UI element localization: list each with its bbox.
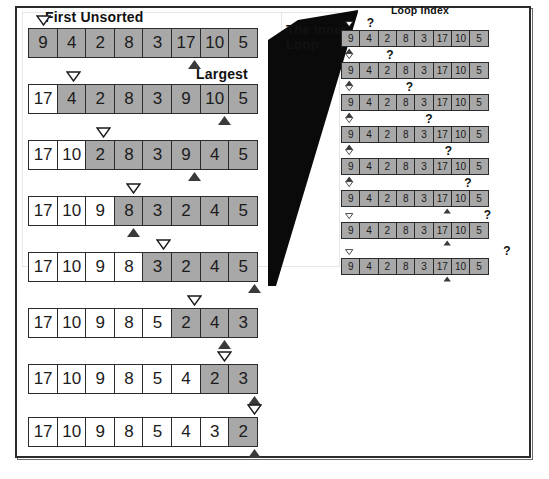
array-cell: 5 [142,417,172,447]
inner-loop-array-row: 9428317105 [341,62,489,79]
array-cell: 3 [414,258,434,275]
array-cell: 2 [85,140,115,170]
loop-index-question-mark: ? [367,16,374,30]
array-cell: 17 [28,252,58,282]
array-cell: 10 [451,126,471,143]
array-cell: 4 [171,417,201,447]
array-cell: 9 [85,308,115,338]
array-cell: 5 [469,190,489,207]
array-cell: 5 [228,28,258,58]
inner-loop-start-pointer-icon [345,53,361,65]
array-cell: 4 [171,364,201,394]
array-cell: 2 [378,158,398,175]
array-cell: 10 [200,84,230,114]
array-cell: 4 [359,30,379,47]
array-cell: 9 [171,140,201,170]
array-cell: 3 [414,222,434,239]
array-cell: 10 [451,62,471,79]
array-cell: 8 [396,158,416,175]
array-cell: 4 [359,258,379,275]
array-cell: 10 [451,258,471,275]
outer-pass-array-row: 1710985243 [28,308,258,338]
outer-pass-array-row: 9428317105 [28,28,258,58]
array-cell: 10 [451,222,471,239]
array-cell: 17 [28,84,58,114]
array-cell: 2 [378,258,398,275]
array-cell: 8 [114,140,144,170]
array-cell: 2 [171,308,201,338]
outer-pass-array-row: 1742839105 [28,84,258,114]
array-cell: 17 [433,222,453,239]
label-loop-index: Loop Index [391,4,449,16]
array-cell: 5 [228,196,258,226]
label-largest: Largest [196,66,248,82]
largest-pointer-icon [247,448,263,460]
array-cell: 3 [414,62,434,79]
array-cell: 4 [359,126,379,143]
array-cell: 2 [378,30,398,47]
array-cell: 17 [433,62,453,79]
array-cell: 5 [469,126,489,143]
array-cell: 8 [114,84,144,114]
inner-loop-start-pointer-icon [345,85,361,97]
array-cell: 2 [228,417,258,447]
array-cell: 10 [451,94,471,111]
inner-loop-array-row: 9428317105 [341,94,489,111]
array-cell: 4 [359,158,379,175]
inner-loop-array-row: 9428317105 [341,190,489,207]
loop-index-question-mark: ? [425,112,432,126]
array-cell: 8 [114,196,144,226]
array-cell: 17 [28,417,58,447]
array-cell: 4 [200,308,230,338]
array-cell: 3 [414,94,434,111]
loop-index-question-mark: ? [386,48,393,62]
array-cell: 17 [171,28,201,58]
array-cell: 17 [433,258,453,275]
array-cell: 4 [359,62,379,79]
array-cell: 8 [396,126,416,143]
inner-loop-largest-pointer-icon [443,208,459,220]
array-cell: 5 [469,258,489,275]
array-cell: 4 [57,84,87,114]
first-unsorted-pointer-icon [247,404,263,416]
array-cell: 9 [85,196,115,226]
array-cell: 10 [451,190,471,207]
array-cell: 4 [200,252,230,282]
array-cell: 5 [469,62,489,79]
array-cell: 3 [142,252,172,282]
first-unsorted-pointer-icon [96,127,112,139]
array-cell: 10 [200,28,230,58]
array-cell: 2 [378,222,398,239]
loop-index-question-mark: ? [406,80,413,94]
largest-pointer-icon [187,59,203,71]
inner-loop-start-pointer-icon [345,149,361,161]
array-cell: 10 [57,308,87,338]
outer-pass-array-row: 1710983245 [28,252,258,282]
inner-loop-start-pointer-icon [345,249,361,261]
array-cell: 2 [378,94,398,111]
array-cell: 5 [469,30,489,47]
array-cell: 5 [142,308,172,338]
inner-loop-array-row: 9428317105 [341,30,489,47]
array-cell: 3 [228,308,258,338]
outer-pass-array-row: 1710985432 [28,417,258,447]
array-cell: 8 [114,308,144,338]
inner-loop-array-row: 9428317105 [341,258,489,275]
array-cell: 2 [378,190,398,207]
array-cell: 2 [378,126,398,143]
array-cell: 10 [57,417,87,447]
array-cell: 5 [469,158,489,175]
array-cell: 17 [433,190,453,207]
loop-index-question-mark: ? [484,208,491,222]
array-cell: 10 [57,140,87,170]
array-cell: 3 [142,84,172,114]
array-cell: 10 [451,158,471,175]
array-cell: 9 [171,84,201,114]
array-cell: 3 [414,126,434,143]
array-cell: 8 [114,252,144,282]
array-cell: 17 [28,196,58,226]
array-cell: 5 [228,84,258,114]
array-cell: 9 [85,364,115,394]
array-cell: 5 [142,364,172,394]
array-cell: 2 [85,84,115,114]
